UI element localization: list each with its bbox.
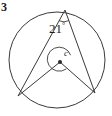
center-point-label: c: [64, 48, 68, 58]
center-point-dot: [58, 60, 62, 64]
geometry-figure: 3 21° c: [0, 0, 112, 116]
degree-symbol: °: [62, 21, 65, 30]
circle-diagram-svg: [0, 0, 112, 116]
radius-center-to-left-base: [18, 62, 60, 96]
question-number-label: 3: [1, 0, 7, 14]
inscribed-angle-value: 21: [49, 21, 62, 36]
chord-apex-to-right-base: [65, 10, 95, 93]
inscribed-angle-label: 21°: [49, 22, 65, 36]
